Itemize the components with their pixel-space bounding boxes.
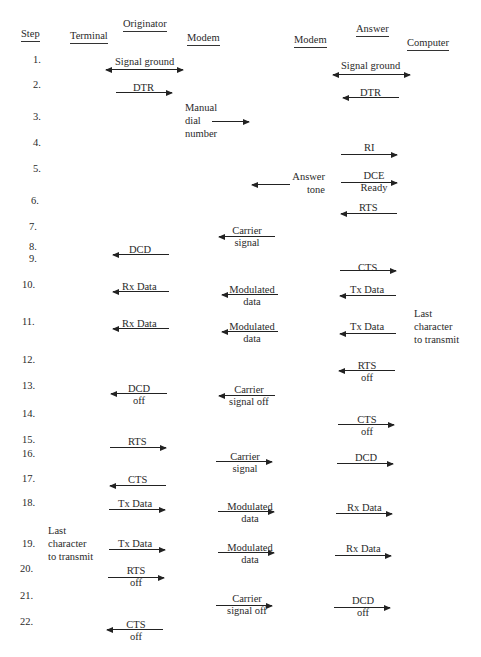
step-number: 5. — [33, 163, 41, 175]
right-arrow-icon — [116, 92, 172, 93]
bidirectional-arrow-icon — [106, 69, 183, 70]
step-number: 8. — [29, 241, 37, 253]
step-number: 4. — [33, 137, 41, 149]
left-arrow-icon — [107, 629, 163, 630]
right-arrow-icon — [218, 552, 274, 553]
step-number: 10. — [22, 279, 35, 291]
step-number: 21. — [20, 590, 33, 602]
modulated-data-label: Modulated data — [226, 284, 278, 308]
left-arrow-icon — [340, 295, 396, 296]
step-number: 16. — [22, 448, 35, 460]
carrier-signal-label: Carrier signal — [226, 451, 264, 475]
left-arrow-icon — [343, 97, 399, 98]
ri-label: RI — [364, 142, 375, 154]
answer-tone-text: Answer tone — [292, 170, 325, 196]
dcd-off-label: DCD off — [125, 383, 153, 407]
cts-label: CTS — [358, 262, 377, 274]
rts-off-label: RTS off — [352, 360, 382, 384]
left-arrow-icon — [339, 370, 395, 371]
right-arrow-icon — [338, 424, 394, 425]
step-number: 17. — [22, 473, 35, 485]
right-arrow-icon — [336, 513, 392, 514]
left-arrow-icon — [113, 291, 169, 292]
right-arrow-icon — [218, 511, 274, 512]
left-arrow-icon — [222, 294, 278, 295]
right-arrow-icon — [212, 121, 249, 122]
header-answer-modem: Modem — [294, 34, 327, 48]
left-arrow-icon — [110, 485, 166, 486]
step-number: 15. — [22, 434, 35, 446]
step-number: 18. — [22, 497, 35, 509]
step-number: 1. — [33, 54, 41, 66]
rx-data-label: Rx Data — [346, 543, 381, 555]
header-step: Step — [21, 28, 40, 42]
step-number: 2. — [33, 79, 41, 91]
right-arrow-icon — [335, 555, 391, 556]
header-originator: Originator — [123, 18, 167, 32]
right-arrow-icon — [341, 154, 397, 155]
step-number: 14. — [22, 408, 35, 420]
right-arrow-icon — [334, 607, 390, 608]
carrier-signal-off-label: Carrier signal off — [224, 384, 274, 408]
step-number: 9. — [29, 253, 37, 265]
left-arrow-icon — [341, 213, 397, 214]
step-number: 22. — [20, 616, 33, 628]
step-number: 20. — [20, 563, 33, 575]
tx-data-label: Tx Data — [350, 321, 384, 333]
last-character-note: Last character to transmit — [48, 524, 93, 563]
header-terminal: Terminal — [70, 30, 108, 44]
step-number: 19. — [22, 538, 35, 550]
right-arrow-icon — [340, 270, 396, 271]
step-number: 13. — [22, 380, 35, 392]
right-arrow-icon — [337, 463, 393, 464]
right-arrow-icon — [109, 509, 165, 510]
left-arrow-icon — [111, 393, 167, 394]
step-number: 7. — [29, 221, 37, 233]
right-arrow-icon — [109, 549, 165, 550]
left-arrow-icon — [340, 333, 396, 334]
header-computer: Computer — [407, 37, 449, 51]
left-arrow-icon — [219, 395, 275, 396]
left-arrow-icon — [252, 184, 290, 185]
step-number: 6. — [31, 195, 39, 207]
cts-off-label: CTS off — [352, 414, 382, 438]
left-arrow-icon — [113, 328, 169, 329]
signal-ground-label: Signal ground — [115, 56, 174, 68]
step-number: 12. — [22, 354, 35, 366]
left-arrow-icon — [219, 236, 275, 237]
header-originator-modem: Modem — [187, 32, 220, 46]
right-arrow-icon — [216, 605, 272, 606]
signal-ground-label: Signal ground — [341, 60, 400, 72]
bidirectional-arrow-icon — [333, 74, 410, 75]
left-arrow-icon — [222, 331, 278, 332]
last-character-note: Last character to transmit — [414, 307, 459, 346]
right-arrow-icon — [110, 447, 166, 448]
right-arrow-icon — [341, 182, 397, 183]
carrier-signal-label: Carrier signal — [228, 225, 266, 249]
right-arrow-icon — [108, 577, 164, 578]
step-number: 3. — [33, 111, 41, 123]
right-arrow-icon — [216, 461, 272, 462]
header-answer: Answer — [356, 23, 389, 37]
modulated-data-label: Modulated data — [226, 321, 278, 345]
left-arrow-icon — [113, 254, 169, 255]
step-number: 11. — [22, 316, 35, 328]
cts-off-label: CTS off — [122, 619, 150, 643]
